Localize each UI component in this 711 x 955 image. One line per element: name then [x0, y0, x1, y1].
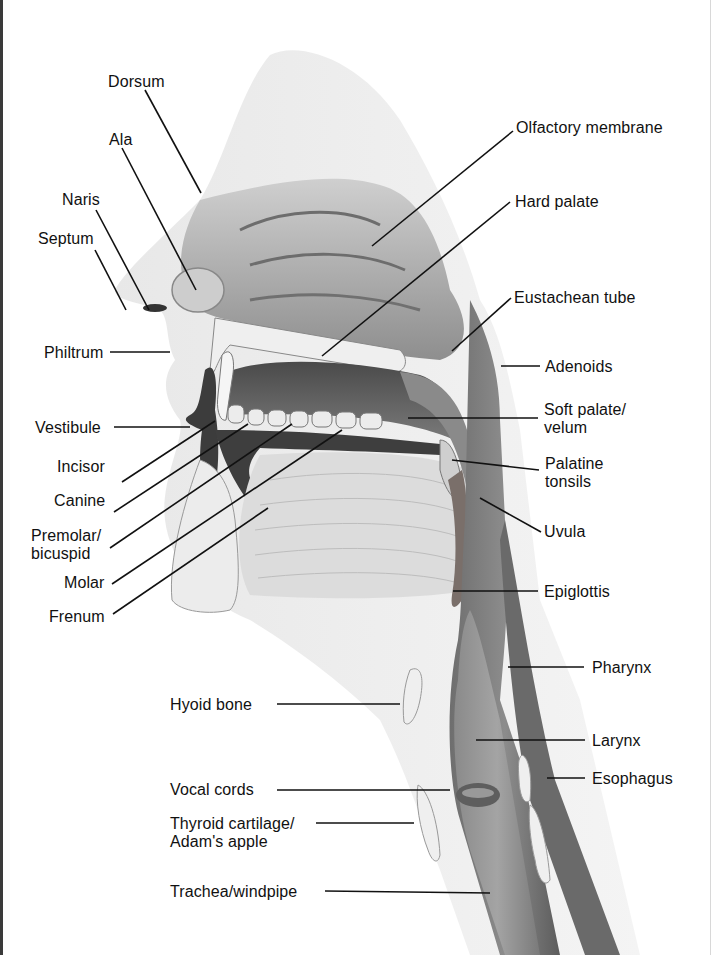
label-trachea: Trachea/windpipe	[170, 883, 297, 901]
label-pharynx: Pharynx	[592, 659, 651, 677]
label-eustachean-tube: Eustachean tube	[514, 289, 636, 307]
label-adenoids: Adenoids	[545, 358, 613, 376]
label-incisor: Incisor	[57, 458, 105, 476]
label-dorsum: Dorsum	[108, 73, 165, 91]
label-palatine-tonsils: Palatine tonsils	[545, 455, 604, 491]
label-ala: Ala	[109, 131, 132, 149]
label-hard-palate: Hard palate	[515, 193, 599, 211]
label-philtrum: Philtrum	[44, 344, 103, 362]
label-soft-palate-line2: velum	[544, 419, 626, 437]
ala-shape	[172, 268, 224, 312]
label-palatine-line1: Palatine	[545, 455, 604, 473]
label-premolar-line1: Premolar/	[31, 527, 101, 545]
label-premolar-line2: bicuspid	[31, 545, 101, 563]
label-thyroid-line1: Thyroid cartilage/	[170, 815, 295, 833]
label-larynx: Larynx	[592, 732, 641, 750]
label-hyoid-bone: Hyoid bone	[170, 696, 252, 714]
label-canine: Canine	[54, 492, 105, 510]
label-vocal-cords: Vocal cords	[170, 781, 254, 799]
label-esophagus: Esophagus	[592, 770, 673, 788]
label-soft-palate: Soft palate/ velum	[544, 401, 626, 437]
label-thyroid-line2: Adam's apple	[170, 833, 295, 851]
label-frenum: Frenum	[49, 608, 105, 626]
label-molar: Molar	[64, 574, 105, 592]
label-epiglottis: Epiglottis	[544, 583, 610, 601]
label-olfactory-membrane: Olfactory membrane	[516, 119, 663, 137]
label-septum: Septum	[38, 230, 94, 248]
label-thyroid-cartilage: Thyroid cartilage/ Adam's apple	[170, 815, 295, 851]
label-uvula: Uvula	[544, 523, 585, 541]
label-soft-palate-line1: Soft palate/	[544, 401, 626, 419]
label-vestibule: Vestibule	[35, 419, 101, 437]
label-naris: Naris	[62, 191, 100, 209]
label-palatine-line2: tonsils	[545, 473, 604, 491]
anatomy-illustration	[0, 0, 711, 955]
label-premolar: Premolar/ bicuspid	[31, 527, 101, 563]
